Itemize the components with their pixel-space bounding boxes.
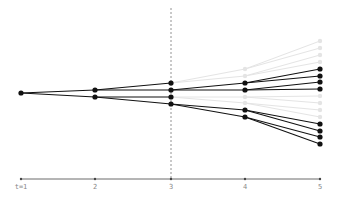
active-node	[242, 114, 247, 119]
ghost-node	[318, 94, 322, 98]
active-node	[92, 94, 97, 99]
active-node	[242, 87, 247, 92]
axis-tick-label: t=1	[15, 183, 28, 191]
ghost-edge	[245, 97, 320, 103]
active-node	[317, 134, 322, 139]
ghost-node	[318, 46, 322, 50]
active-node	[317, 121, 322, 126]
active-node	[317, 79, 322, 84]
active-node	[242, 80, 247, 85]
ghost-node	[243, 101, 247, 105]
axis-tick-label: 4	[243, 183, 247, 191]
active-edge	[21, 90, 95, 93]
active-edge	[245, 110, 320, 124]
axis-tick	[244, 178, 246, 180]
active-node	[317, 66, 322, 71]
ghost-edge	[171, 97, 245, 103]
active-node	[168, 94, 173, 99]
axis-tick-label: 5	[318, 183, 322, 191]
active-node	[168, 80, 173, 85]
axis-tick-label: 2	[93, 183, 97, 191]
ghost-node	[318, 101, 322, 105]
ghost-node	[318, 108, 322, 112]
ghost-node	[318, 115, 322, 119]
active-node	[317, 141, 322, 146]
active-edge	[171, 104, 245, 117]
branching-tree-diagram: t=12345	[0, 0, 337, 200]
active-edge	[95, 83, 171, 90]
ghost-edge	[245, 103, 320, 110]
axis-tick-label: 3	[169, 183, 173, 191]
active-edge	[245, 76, 320, 83]
axis-tick	[170, 178, 172, 180]
active-node	[317, 128, 322, 133]
active-node	[317, 86, 322, 91]
axis-tick	[94, 178, 96, 180]
axis-tick	[20, 178, 22, 180]
ghost-edge	[245, 62, 320, 76]
active-nodes	[18, 66, 322, 146]
active-node	[168, 87, 173, 92]
ghost-edge	[245, 103, 320, 117]
active-node	[242, 107, 247, 112]
active-edge	[171, 83, 245, 90]
active-edge	[245, 69, 320, 83]
axis-tick	[319, 178, 321, 180]
active-node	[317, 73, 322, 78]
tree-canvas: t=12345	[0, 0, 337, 200]
ghost-node	[243, 67, 247, 71]
active-node	[168, 101, 173, 106]
ghost-edge	[245, 96, 320, 97]
ghost-edge	[171, 76, 245, 83]
active-edge	[95, 97, 171, 104]
time-axis: t=12345	[15, 178, 322, 191]
ghost-node	[318, 53, 322, 57]
ghost-edge	[245, 41, 320, 69]
ghost-node	[243, 74, 247, 78]
ghost-edge	[171, 69, 245, 83]
active-edge	[171, 104, 245, 110]
ghost-node	[318, 60, 322, 64]
active-edge	[21, 93, 95, 97]
active-node	[92, 87, 97, 92]
active-node	[18, 90, 23, 95]
ghost-node	[243, 95, 247, 99]
ghost-node	[318, 39, 322, 43]
